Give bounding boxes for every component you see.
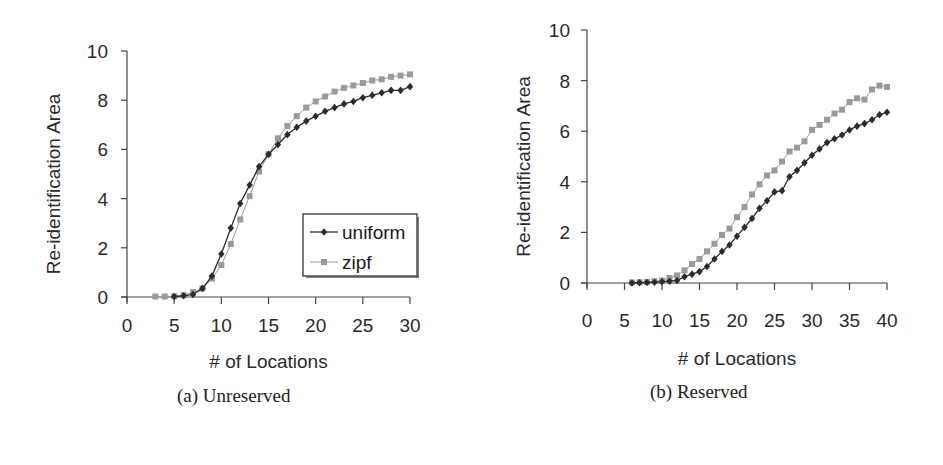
data-point (388, 74, 394, 80)
y-tick-label: 2 (97, 238, 108, 259)
data-point (734, 214, 740, 220)
data-point (369, 91, 375, 99)
data-point (218, 250, 224, 258)
data-point (350, 98, 356, 106)
data-point (341, 85, 347, 91)
x-tick-label: 25 (352, 315, 373, 336)
charts-canvas: 0246810051015202530# of LocationsRe-iden… (0, 0, 943, 465)
data-point (839, 131, 845, 139)
x-tick-label: 35 (839, 310, 860, 331)
chart-a: 0246810051015202530# of LocationsRe-iden… (43, 41, 421, 372)
data-point (809, 127, 815, 133)
data-point (779, 159, 785, 165)
data-point (294, 123, 300, 131)
data-point (312, 112, 318, 120)
data-point (303, 105, 309, 111)
data-point (407, 83, 413, 91)
x-tick-label: 20 (726, 310, 747, 331)
data-point (884, 84, 890, 90)
data-point (379, 89, 385, 97)
data-point (817, 122, 823, 128)
data-point (682, 267, 688, 273)
y-tick-label: 0 (559, 273, 570, 294)
legend-uniform-label: uniform (342, 222, 405, 243)
x-axis-title: # of Locations (209, 351, 327, 372)
x-tick-label: 15 (258, 315, 279, 336)
legend-zipf-label: zipf (342, 252, 372, 273)
data-point (398, 73, 404, 79)
data-point (802, 138, 808, 144)
series-uniform (629, 108, 890, 286)
y-tick-label: 10 (87, 41, 108, 62)
data-point (779, 187, 785, 195)
data-point (247, 193, 253, 199)
y-tick-label: 10 (549, 20, 570, 41)
data-point (407, 71, 413, 77)
data-point (350, 82, 356, 88)
data-point (397, 87, 403, 95)
y-axis-title: Re-identification Area (43, 93, 64, 274)
data-point (303, 117, 309, 125)
data-point (322, 94, 328, 100)
data-point (237, 200, 243, 208)
data-point (861, 120, 867, 128)
data-point (162, 294, 168, 300)
data-point (839, 107, 845, 113)
data-point (831, 135, 837, 143)
data-point (712, 241, 718, 247)
y-tick-label: 4 (97, 189, 108, 210)
data-point (237, 217, 243, 223)
data-point (832, 110, 838, 116)
y-tick-label: 0 (97, 287, 108, 308)
data-point (846, 126, 852, 134)
y-axis-title: Re-identification Area (513, 76, 534, 257)
x-tick-label: 10 (211, 315, 232, 336)
data-point (697, 256, 703, 262)
data-point (341, 100, 347, 108)
data-point (764, 172, 770, 178)
data-point (862, 97, 868, 103)
y-tick-label: 8 (97, 90, 108, 111)
y-tick-label: 8 (559, 71, 570, 92)
x-tick-label: 25 (764, 310, 785, 331)
x-tick-label: 30 (399, 315, 420, 336)
data-point (322, 107, 328, 115)
data-point (388, 87, 394, 95)
data-point (884, 108, 890, 116)
data-point (742, 204, 748, 210)
data-point (787, 148, 793, 154)
data-point (696, 268, 702, 276)
data-point (877, 83, 883, 89)
data-point (246, 181, 252, 189)
caption-b: (b) Reserved (650, 381, 748, 403)
y-tick-label: 6 (559, 121, 570, 142)
data-point (152, 294, 158, 300)
data-point (275, 135, 281, 141)
data-point (794, 145, 800, 151)
x-tick-label: 40 (876, 310, 897, 331)
data-point (331, 104, 337, 112)
data-point (360, 80, 366, 86)
x-axis-title: # of Locations (678, 348, 796, 369)
series-zipf (629, 83, 890, 286)
data-point (228, 241, 234, 247)
data-point (284, 123, 290, 129)
data-point (772, 167, 778, 173)
chart-b: 02468100510152025303540# of LocationsRe-… (513, 20, 898, 369)
caption-a: (a) Unreserved (177, 385, 290, 407)
figure: 0246810051015202530# of LocationsRe-iden… (0, 0, 943, 465)
x-tick-label: 10 (651, 310, 672, 331)
y-tick-label: 2 (559, 222, 570, 243)
data-point (847, 99, 853, 105)
data-point (294, 113, 300, 119)
data-point (313, 98, 319, 104)
y-tick-label: 6 (97, 139, 108, 160)
x-tick-label: 0 (122, 315, 133, 336)
data-point (749, 191, 755, 197)
data-point (854, 122, 860, 130)
legend: uniformzipf (303, 214, 419, 277)
data-point (379, 76, 385, 82)
data-point (332, 89, 338, 95)
x-tick-label: 20 (305, 315, 326, 336)
data-point (369, 78, 375, 84)
